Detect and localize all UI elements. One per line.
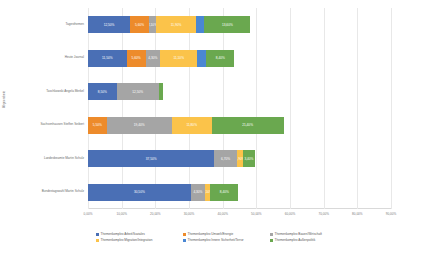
x-axis-tick: 80,00% [352,212,363,216]
legend-item[interactable]: Themenkomplex Arbeit/Soziales [96,233,183,236]
legend-swatch-icon [96,239,99,242]
bar-segment[interactable]: 19,40% [107,117,172,134]
y-axis-label: Heute Journal [65,56,84,59]
bar-segment[interactable]: 12,50% [88,16,130,33]
bar-segment[interactable] [197,50,206,67]
bar-row[interactable]: 8,50%12,50% [88,83,163,100]
bar-segment[interactable]: 11,50% [88,50,127,67]
plot-area: 12,50%5,60%2,10%11,90%13,60%11,50%5,60%4… [88,8,391,209]
x-axis-line [88,208,391,209]
y-axis-label: Tagesthemen [65,23,84,26]
bar-segment[interactable]: 8,40% [210,184,238,201]
bar-row[interactable]: 37,50%6,70%1,90%3,40% [88,150,255,167]
bar-segment[interactable]: 4,30% [191,184,205,201]
bar-segment[interactable]: 3,40% [243,150,254,167]
legend-swatch-icon [96,233,99,236]
gridline [189,8,190,209]
bar-segment[interactable]: 4,30% [146,50,160,67]
bar-segment[interactable]: 5,50% [88,117,107,134]
gridline [324,8,325,209]
gridline [357,8,358,209]
bar-segment[interactable]: 11,80% [172,117,212,134]
gridline [155,8,156,209]
x-axis-tick: 10,00% [116,212,127,216]
x-axis-tick: 60,00% [285,212,296,216]
legend-item[interactable]: Themenkomplex Bauen/Wirtschaft [270,233,357,236]
bar-row[interactable]: 11,50%5,60%4,30%11,10%8,40% [88,50,234,67]
y-axis-label: Sachsenhausen Steffen Seibert [41,123,84,126]
bar-segment[interactable]: 6,70% [214,150,237,167]
bar-row[interactable]: 30,50%4,30%1,50%8,40% [88,184,238,201]
x-axis-tick: 0,00% [84,212,93,216]
legend-label: Themenkomplex Bauen/Wirtschaft [275,233,322,236]
gridline [290,8,291,209]
bar-segment[interactable]: 13,60% [204,16,250,33]
y-axis-label: Landesbeamte Martin Schulz [44,157,84,160]
bar-segment[interactable]: 5,60% [130,16,149,33]
bar-segment[interactable]: 37,50% [88,150,214,167]
bar-segment[interactable] [159,83,163,100]
gridline [122,8,123,209]
bar-segment[interactable]: 8,50% [88,83,117,100]
legend-swatch-icon [270,239,273,242]
chart-legend: Themenkomplex Arbeit/SozialesThemenkompl… [96,233,358,245]
bar-segment[interactable]: 11,10% [160,50,197,67]
legend-label: Themenkomplex Außenpolitik [275,239,316,242]
x-axis-tick: 20,00% [150,212,161,216]
legend-item[interactable]: Themenkomplex Umwelt/Energie [183,233,270,236]
bar-segment[interactable]: 30,50% [88,184,191,201]
gridline [88,8,89,209]
gridline [223,8,224,209]
bar-segment[interactable]: 8,40% [206,50,234,67]
chart-root: Abgeordnete TagesthemenHeute JournalTasc… [0,0,431,262]
legend-item[interactable]: Themenkomplex Außenpolitik [270,239,357,242]
bar-row[interactable]: 5,50%19,40%11,80%21,40% [88,117,284,134]
legend-swatch-icon [183,233,186,236]
y-axis-label: Taschkowski Angela Merkel [46,90,84,93]
x-axis-tick: 50,00% [251,212,262,216]
legend-item[interactable]: Themenkomplex Migration/Integration [96,239,183,242]
bar-segment[interactable]: 12,50% [117,83,159,100]
bar-segment[interactable]: 11,90% [156,16,196,33]
legend-label: Themenkomplex Arbeit/Soziales [101,233,145,236]
legend-swatch-icon [183,239,186,242]
x-axis-tick-labels: 0,00%10,00%20,00%30,00%40,00%50,00%60,00… [88,212,391,222]
bar-segment[interactable] [196,16,204,33]
legend-label: Themenkomplex Innere Sicherheit/Terror [188,239,244,242]
legend-item[interactable]: Themenkomplex Innere Sicherheit/Terror [183,239,270,242]
x-axis-tick: 30,00% [184,212,195,216]
bar-segment[interactable]: 2,10% [149,16,156,33]
y-axis-label: Bundestagswahl Martin Schulz [42,190,84,193]
x-axis-tick: 70,00% [318,212,329,216]
gridline [256,8,257,209]
x-axis-tick: 90,00% [386,212,397,216]
y-axis-category-labels: TagesthemenHeute JournalTaschkowski Ange… [0,8,84,209]
bar-row[interactable]: 12,50%5,60%2,10%11,90%13,60% [88,16,250,33]
gridline [391,8,392,209]
legend-label: Themenkomplex Migration/Integration [101,239,153,242]
bar-segment[interactable]: 5,60% [127,50,146,67]
legend-label: Themenkomplex Umwelt/Energie [188,233,234,236]
x-axis-tick: 40,00% [217,212,228,216]
legend-swatch-icon [270,233,273,236]
bar-segment[interactable]: 21,40% [212,117,284,134]
